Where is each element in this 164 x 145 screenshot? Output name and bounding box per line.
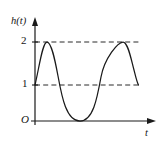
x-axis-arrowhead [147,118,156,124]
x-axis-label: t [145,128,148,139]
y-axis-arrowhead [32,17,38,26]
y-tick-label-2: 2 [21,35,27,46]
figure-container: h(t) 2 1 O t [0,0,164,145]
origin-label: O [21,114,29,125]
sinusoid-curve [35,42,139,121]
y-tick-label-1: 1 [22,78,28,89]
y-axis-label: h(t) [11,16,26,27]
